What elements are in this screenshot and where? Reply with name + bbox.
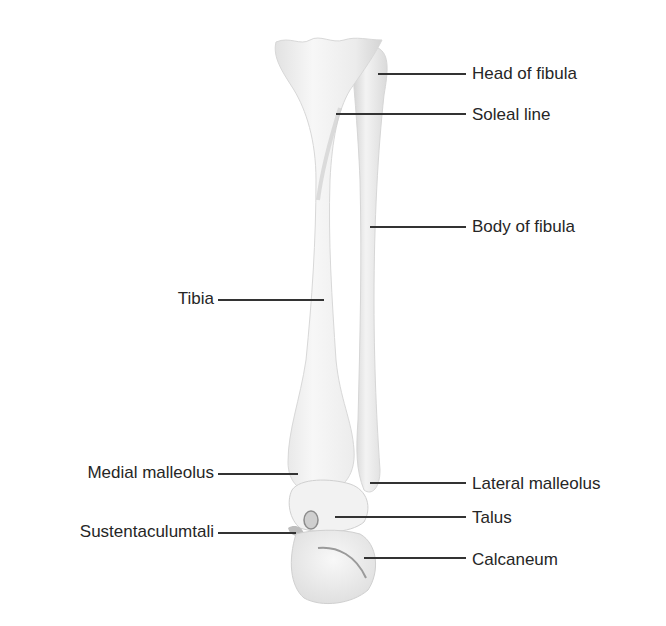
talus — [288, 480, 368, 536]
leader-head-of-fibula — [378, 73, 466, 75]
leader-body-of-fibula — [370, 226, 466, 228]
leader-tibia — [218, 299, 324, 301]
leader-soleal-line — [336, 113, 466, 115]
leader-sustentaculum-tali — [218, 532, 296, 534]
label-tibia: Tibia — [178, 289, 214, 309]
anatomy-figure: Head of fibula Soleal line Body of fibul… — [0, 0, 666, 626]
fibula — [352, 44, 387, 491]
leader-lateral-malleolus — [370, 482, 466, 484]
label-sustentaculum-tali: Sustentaculumtali — [80, 522, 214, 542]
label-body-of-fibula: Body of fibula — [472, 217, 575, 237]
label-head-of-fibula: Head of fibula — [472, 64, 577, 84]
label-lateral-malleolus: Lateral malleolus — [472, 474, 601, 494]
leader-medial-malleolus — [218, 473, 298, 475]
label-soleal-line: Soleal line — [472, 105, 550, 125]
label-talus: Talus — [472, 508, 512, 528]
label-medial-malleolus: Medial malleolus — [87, 463, 214, 483]
label-calcaneum: Calcaneum — [472, 550, 558, 570]
calcaneum — [291, 530, 375, 603]
leader-talus — [335, 516, 466, 518]
leader-calcaneum — [364, 557, 466, 559]
